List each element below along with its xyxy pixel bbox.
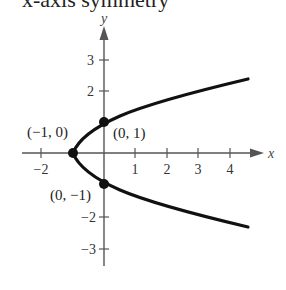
vertex-label: (−1, 0) xyxy=(27,124,68,141)
x-axis-label: x xyxy=(267,146,275,161)
y-tick-label: 2 xyxy=(87,84,94,99)
graph: −2 1 2 3 4 x 3 2 −2 −3 y (−1, 0) (0, 1) … xyxy=(0,0,286,290)
point-upper-intercept xyxy=(99,117,109,127)
y-axis-arrow-icon xyxy=(100,26,109,40)
upper-intercept-label: (0, 1) xyxy=(113,125,146,142)
y-tick-label: 3 xyxy=(87,53,94,68)
x-axis: −2 1 2 3 4 x xyxy=(22,146,275,177)
y-axis-label: y xyxy=(99,11,108,26)
x-tick-label: 4 xyxy=(227,162,234,177)
x-tick-label: 2 xyxy=(164,162,171,177)
x-axis-arrow-icon xyxy=(250,149,264,158)
vertex-point xyxy=(68,148,78,158)
y-tick-label: −3 xyxy=(81,242,96,257)
lower-intercept-label: (0, −1) xyxy=(50,187,91,204)
y-tick-label: −2 xyxy=(81,210,96,225)
x-tick-label: 3 xyxy=(195,162,202,177)
point-lower-intercept xyxy=(99,179,109,189)
x-tick-label: 1 xyxy=(132,162,139,177)
x-tick-label: −2 xyxy=(34,162,49,177)
